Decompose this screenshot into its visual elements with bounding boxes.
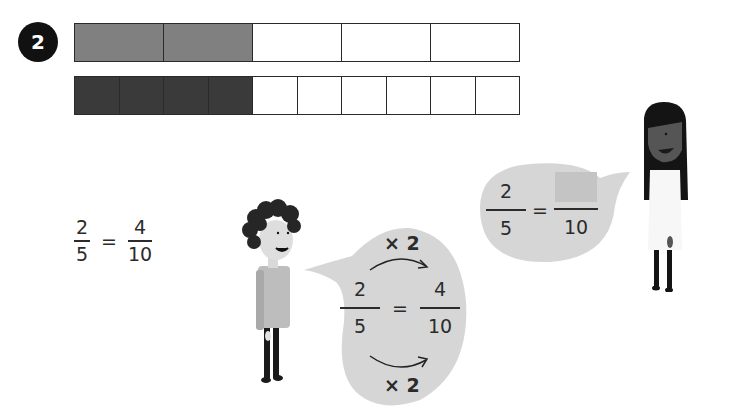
question-number-badge: 2 [18, 22, 58, 62]
bar-cell [253, 24, 342, 61]
bubble-equation: 2 5 = 4 10 [340, 280, 460, 336]
missing-numerator-box[interactable] [555, 172, 597, 202]
bar-cell-shaded [164, 77, 209, 114]
bar-cell [342, 24, 431, 61]
fraction-left: 2 5 [486, 182, 526, 238]
denominator: 5 [500, 219, 512, 238]
bar-cell [431, 77, 476, 114]
denominator: 5 [76, 245, 88, 264]
denominator: 10 [564, 218, 588, 237]
bar-cell-shaded [209, 77, 254, 114]
girl-character-illustration [636, 100, 696, 292]
bar-cell [431, 24, 519, 61]
numerator: 2 [354, 280, 366, 299]
fraction-line [420, 307, 460, 309]
numerator: 2 [500, 182, 512, 201]
denominator: 10 [428, 317, 452, 336]
bar-cell [342, 77, 387, 114]
fraction-line [340, 307, 380, 309]
fraction-bar-tenths [74, 76, 520, 115]
curved-arrow-bottom-icon [368, 354, 432, 372]
fraction-line [554, 208, 598, 210]
fraction-right: 4 10 [420, 280, 460, 336]
numerator: 4 [434, 280, 446, 299]
fraction-left: 2 5 [74, 218, 90, 264]
bar-cell-shaded [164, 24, 253, 61]
fraction-right: 10 [554, 184, 598, 237]
equals-sign: = [532, 199, 548, 221]
bar-cell [476, 77, 520, 114]
boy-character-illustration [236, 196, 306, 391]
equals-sign: = [392, 297, 408, 319]
fraction-line [128, 240, 152, 242]
bar-cell [253, 77, 298, 114]
fraction-right: 4 10 [128, 218, 152, 264]
bar-cell [298, 77, 343, 114]
fraction-line [74, 240, 90, 242]
numerator: 4 [134, 218, 146, 237]
fraction-line [486, 209, 526, 211]
bar-cell-shaded [75, 24, 164, 61]
multiply-label-top: × 2 [384, 232, 420, 254]
bar-cell [387, 77, 432, 114]
girl-speech-bubble: 2 5 = 10 [486, 182, 598, 238]
denominator: 10 [128, 245, 152, 264]
denominator: 5 [354, 317, 366, 336]
equivalence-equation: 2 5 = 4 10 [74, 218, 152, 264]
bar-cell-shaded [75, 77, 120, 114]
multiply-label-bottom: × 2 [384, 374, 420, 396]
fraction-bar-fifths [74, 23, 520, 62]
boy-speech-bubble: × 2 2 5 = 4 10 × 2 [340, 232, 460, 397]
numerator: 2 [76, 218, 88, 237]
bar-cell-shaded [120, 77, 165, 114]
fraction-left: 2 5 [340, 280, 380, 336]
curved-arrow-top-icon [368, 254, 432, 272]
equals-sign: = [101, 230, 117, 252]
